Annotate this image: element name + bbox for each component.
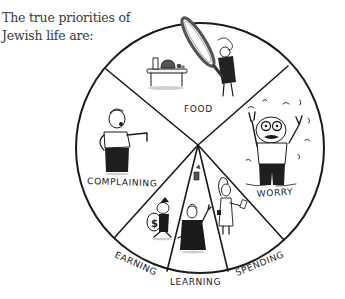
woman-with-purse-and-credit-card-icon — [217, 178, 247, 234]
slice-label-food: FOOD — [184, 104, 213, 114]
pie-chart: FOOD WORRY — [0, 0, 345, 299]
woman-with-magnifying-glass-over-food-table-icon — [147, 15, 236, 96]
complaining-slice: COMPLAINING — [87, 109, 158, 189]
svg-text:$: $ — [151, 218, 158, 229]
worry-slice: WORRY — [246, 100, 310, 199]
slice-label-learning: LEARNING — [170, 277, 221, 287]
man-carrying-money-bag-icon: $ — [147, 197, 172, 240]
earning-slice: $ EARNING — [113, 197, 172, 277]
slice-label-spending: SPENDING — [234, 249, 286, 278]
complaining-man-pointing-icon — [100, 109, 147, 175]
slice-label-complaining: COMPLAINING — [87, 176, 158, 188]
slice-label-worry: WORRY — [256, 186, 293, 199]
panicked-man-icon — [246, 100, 310, 187]
